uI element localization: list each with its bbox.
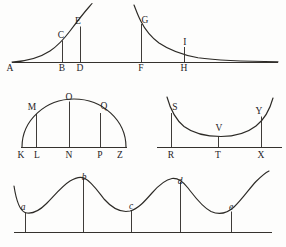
figure-3-label-V: V [215, 123, 222, 133]
figure-2-label-M: M [28, 102, 37, 112]
figure-1-label-H: H [180, 63, 187, 73]
figure-2-label-Q: Q [100, 101, 107, 111]
figure-3-label-Y: Y [255, 106, 262, 116]
figure-4-label-e: e [229, 202, 233, 212]
figure-1-label-C: C [58, 30, 65, 40]
figure-1-label-F: F [138, 63, 143, 73]
figure-2-label-Z: Z [117, 150, 123, 160]
figure-3-group: S V Y R T X [157, 97, 282, 160]
figure-2-label-K: K [17, 150, 24, 160]
figure-4-label-d: d [178, 176, 183, 186]
figure-3-label-R: R [168, 150, 175, 160]
figure-1-label-E: E [75, 16, 81, 26]
figure-3-label-X: X [257, 150, 264, 160]
figure-4-group: a b c d e [14, 171, 272, 233]
figure-2-arc [22, 99, 126, 147]
figure-1-label-D: D [76, 63, 83, 73]
figure-2-label-O: O [65, 92, 72, 102]
figure-1-label-I: I [183, 37, 186, 47]
figure-1-label-A: A [6, 63, 13, 73]
figure-4-label-a: a [21, 202, 26, 212]
figure-1-group: A C B E D G F I H [6, 4, 278, 74]
figure-plate-canvas: A C B E D G F I H M O Q K L N [0, 0, 286, 247]
figure-4-label-b: b [82, 172, 87, 182]
figure-1-decaying-curve [134, 5, 278, 62]
figure-1-rising-curve [12, 4, 92, 63]
engraved-figure-plate: A C B E D G F I H M O Q K L N [0, 0, 286, 247]
figure-1-label-B: B [59, 63, 66, 73]
figure-2-group: M O Q K L N P Z [17, 92, 127, 160]
figure-3-label-S: S [172, 102, 177, 112]
figure-3-label-T: T [215, 150, 221, 160]
figure-1-label-G: G [141, 15, 148, 25]
figure-2-label-N: N [65, 150, 72, 160]
figure-2-label-P: P [97, 150, 102, 160]
figure-2-label-L: L [34, 150, 40, 160]
